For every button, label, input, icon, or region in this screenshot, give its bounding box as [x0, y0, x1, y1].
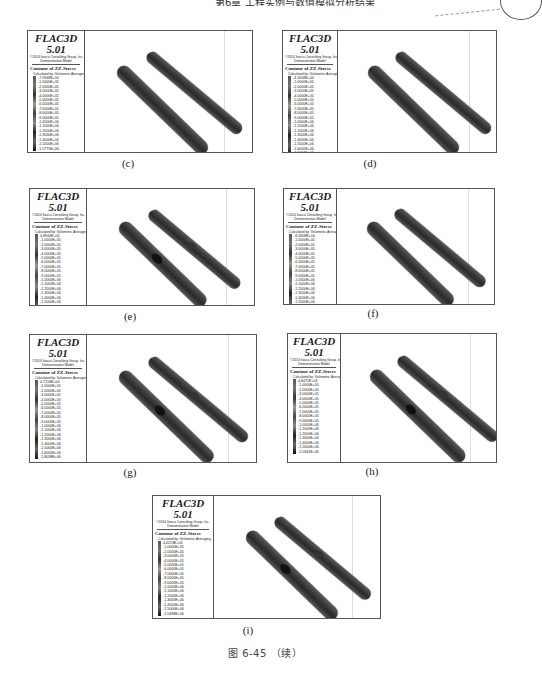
legend-divider [288, 222, 332, 223]
tube-model-back [272, 514, 373, 602]
model-name: Demonstration Model [155, 524, 211, 528]
tube-model-front [114, 63, 211, 152]
panel-caption-f: (f) [353, 307, 393, 319]
view-guide-line [468, 189, 469, 304]
model-name: Demonstration Model [290, 362, 338, 366]
contour-legend: FLAC3D 5.01 ©2014 Itasca Consulting Grou… [30, 189, 87, 305]
view-guide-line [352, 496, 353, 618]
legend-values: 4.7218E+04-1.0000E+05-2.0000E+05-3.0000E… [40, 380, 61, 459]
legend-value: -3.0000E+05 [40, 393, 61, 397]
figure-panel-i: FLAC3D 5.01 ©2014 Itasca Consulting Grou… [152, 495, 381, 619]
panel-caption-g: (g) [110, 466, 150, 478]
contour-legend: FLAC3D 5.01 ©2014 Itasca Consulting Grou… [283, 31, 338, 152]
legend-divider [34, 222, 82, 223]
excavation-hole [150, 252, 164, 266]
software-title: FLAC3D 5.01 [32, 337, 84, 359]
figure-title: 图 6-45 （续） [150, 645, 380, 660]
legend-divider [292, 367, 336, 368]
color-scale-bar [293, 379, 296, 454]
page-header: 第6章 工程实例与数值模拟分析结果 [215, 0, 515, 6]
excavation-hole [438, 389, 449, 400]
software-title: FLAC3D 5.01 [285, 33, 335, 55]
contour-legend: FLAC3D 5.01 ©2014 Itasca Consulting Grou… [284, 189, 337, 304]
software-title: FLAC3D 5.01 [290, 336, 338, 358]
model-view [337, 189, 494, 304]
excavation-hole [185, 240, 196, 251]
model-view [87, 189, 254, 305]
model-view [214, 496, 380, 618]
software-title: FLAC3D 5.01 [286, 191, 334, 213]
legend-values: -4.3208E+04-1.0000E+05-2.0000E+05-3.0000… [293, 76, 314, 152]
legend-values: 4.0213E+04-1.0000E+05-2.0000E+05-3.0000E… [163, 541, 184, 616]
color-scale-bar [289, 234, 292, 304]
color-scale-bar [288, 76, 291, 152]
excavation-hole [279, 562, 293, 576]
legend-value: -3.0000E+05 [298, 392, 319, 396]
tube-model-front [116, 368, 216, 462]
legend-value: -1.5000E+06 [40, 300, 61, 304]
view-guide-line [228, 335, 229, 462]
panel-caption-c: (c) [108, 157, 148, 169]
legend-value: -8.0000E+05 [163, 576, 184, 580]
legend-values: -8.3008E+04-1.0000E+05-2.0000E+05-3.0000… [294, 234, 315, 304]
legend-value: -1.5000E+06 [293, 142, 314, 146]
legend-values: -7.0948E+04-1.0000E+05-2.0000E+05-3.0000… [38, 76, 59, 151]
excavation-hole [313, 549, 324, 560]
page-number-circle [500, 0, 542, 20]
legend-value: -8.0000E+05 [40, 415, 61, 419]
model-view [338, 31, 496, 152]
figure-panel-h: FLAC3D 5.01 ©2014 Itasca Consulting Grou… [287, 333, 497, 463]
legend-value: -3.0000E+05 [38, 89, 59, 93]
figure-panel-d: FLAC3D 5.01 ©2014 Itasca Consulting Grou… [282, 30, 497, 153]
legend-divider [287, 64, 333, 65]
panel-caption-d: (d) [350, 157, 390, 169]
view-guide-line [470, 334, 471, 462]
legend-value: -1.5000E+06 [38, 142, 59, 146]
model-name: Demonstration Model [32, 363, 84, 367]
legend-divider [32, 64, 80, 65]
panel-caption-e: (e) [110, 310, 150, 322]
model-view [87, 335, 256, 462]
color-scale-bar [35, 234, 38, 305]
software-title: FLAC3D 5.01 [155, 498, 211, 520]
legend-divider [157, 529, 209, 530]
tube-model-back [146, 354, 250, 444]
legend-value: -8.0000E+05 [293, 111, 314, 115]
panel-caption-h: (h) [352, 465, 392, 477]
figure-panel-c: FLAC3D 5.01 ©2014 Itasca Consulting Grou… [27, 30, 253, 153]
software-title: FLAC3D 5.01 [30, 33, 82, 55]
tube-model-back [392, 206, 488, 289]
model-view [85, 31, 252, 152]
legend-value: -3.0000E+05 [294, 247, 315, 251]
legend-value: -8.0000E+05 [294, 269, 315, 273]
legend-value: -1.5000E+06 [298, 445, 319, 449]
legend-values: 4.8472E+04-1.0000E+05-2.0000E+05-3.0000E… [298, 379, 319, 454]
model-name: Demonstration Model [286, 217, 334, 221]
legend-value: -3.0000E+05 [163, 554, 184, 558]
view-guide-line [224, 31, 225, 152]
panel-caption-i: (i) [228, 624, 268, 636]
tube-model-front [116, 219, 209, 305]
legend-value: -8.0000E+05 [298, 414, 319, 418]
legend-divider [34, 368, 82, 369]
legend-value: -3.0000E+05 [40, 247, 61, 251]
software-title: FLAC3D 5.01 [32, 191, 84, 213]
legend-value: -1.8038E+06 [40, 455, 61, 459]
color-scale-bar [158, 541, 161, 616]
legend-value: -1.6000E+06 [40, 305, 61, 306]
tube-model-back [146, 207, 243, 291]
excavation-hole [404, 403, 418, 417]
legend-value: -1.6034E+06 [293, 151, 314, 152]
tube-model-front [243, 528, 340, 618]
contour-legend: FLAC3D 5.01 ©2014 Itasca Consulting Grou… [28, 31, 85, 152]
view-guide-line [469, 31, 470, 152]
contour-legend: FLAC3D 5.01 ©2014 Itasca Consulting Grou… [288, 334, 341, 462]
legend-values: 4.8944E+04-1.0000E+05-2.0000E+05-3.0000E… [40, 234, 61, 305]
legend-value: -3.0000E+05 [293, 89, 314, 93]
header-decoration-line [435, 9, 500, 17]
excavation-hole [153, 403, 167, 417]
tube-model-back [144, 49, 244, 136]
figure-panel-g: FLAC3D 5.01 ©2014 Itasca Consulting Grou… [29, 334, 257, 463]
contour-legend: FLAC3D 5.01 ©2014 Itasca Consulting Grou… [153, 496, 214, 618]
tube-model-back [393, 49, 493, 136]
